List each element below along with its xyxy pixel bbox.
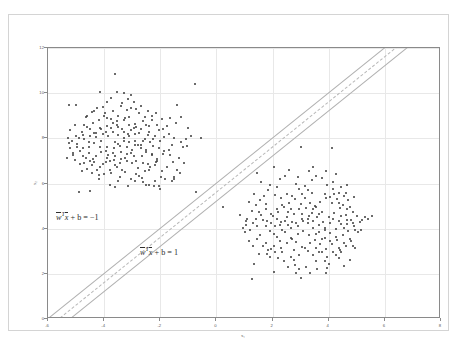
scatter-point [276, 186, 278, 188]
scatter-point [93, 110, 95, 112]
scatter-point [88, 141, 90, 143]
scatter-point [124, 157, 126, 159]
scatter-point [96, 107, 98, 109]
scatter-point [133, 101, 135, 103]
scatter-point [110, 127, 112, 129]
scatter-point [138, 132, 140, 134]
scatter-point [265, 208, 267, 210]
scatter-point [302, 220, 304, 222]
scatter-point [252, 222, 254, 224]
scatter-point [288, 169, 290, 171]
scatter-point [126, 146, 128, 148]
scatter-point [318, 224, 320, 226]
scatter-point [82, 155, 84, 157]
scatter-point [138, 175, 140, 177]
scatter-point [71, 140, 73, 142]
scatter-point [291, 221, 293, 223]
scatter-point [134, 140, 136, 142]
scatter-point [74, 124, 76, 126]
scatter-point [307, 250, 309, 252]
scatter-point [357, 231, 359, 233]
scatter-point [154, 164, 156, 166]
scatter-point [304, 197, 306, 199]
scatter-point [168, 133, 170, 135]
scatter-point [256, 238, 258, 240]
scatter-point [321, 177, 323, 179]
y-tick-mark [44, 318, 47, 319]
scatter-point [85, 157, 87, 159]
scatter-point [277, 211, 279, 213]
scatter-point [117, 126, 119, 128]
scatter-point [109, 169, 111, 171]
scatter-point [126, 153, 128, 155]
scatter-point [301, 193, 303, 195]
scatter-point [69, 147, 71, 149]
scatter-point [123, 119, 125, 121]
scatter-point [95, 132, 97, 134]
scatter-point [248, 240, 250, 242]
scatter-point [338, 257, 340, 259]
scatter-point [312, 227, 314, 229]
scatter-point [135, 108, 137, 110]
x-tick-mark [384, 318, 385, 321]
scatter-point [151, 153, 153, 155]
scatter-point [126, 109, 128, 111]
scatter-point [91, 164, 93, 166]
scatter-point [123, 92, 125, 94]
scatter-point [276, 218, 278, 220]
scatter-point [133, 155, 135, 157]
scatter-point [297, 225, 299, 227]
scatter-point [190, 135, 192, 137]
scatter-point [98, 178, 100, 180]
scatter-point [134, 133, 136, 135]
scatter-point [120, 158, 122, 160]
scatter-point [280, 247, 282, 249]
scatter-point [305, 266, 307, 268]
scatter-point [345, 192, 347, 194]
gridline-vertical [104, 48, 105, 317]
scatter-point [307, 189, 309, 191]
scatter-point [284, 231, 286, 233]
scatter-point [286, 193, 288, 195]
scatter-point [93, 142, 95, 144]
scatter-point [273, 271, 275, 273]
scatter-point [253, 263, 255, 265]
x-tick-label: 6 [383, 323, 385, 328]
scatter-point [300, 277, 302, 279]
scatter-point [329, 196, 331, 198]
scatter-point [137, 167, 139, 169]
scatter-point [185, 138, 187, 140]
scatter-point [244, 231, 246, 233]
gridline-horizontal [48, 138, 439, 139]
scatter-point [89, 160, 91, 162]
scatter-point [144, 138, 146, 140]
scatter-point [325, 197, 327, 199]
scatter-point [315, 260, 317, 262]
annotation-margin-negative: wTx + b = −1 [56, 211, 99, 222]
scatter-point [316, 216, 318, 218]
scatter-point [329, 232, 331, 234]
scatter-point [106, 117, 108, 119]
scatter-point [315, 233, 317, 235]
annot-neg-rest: + b = −1 [68, 213, 98, 222]
scatter-point [130, 129, 132, 131]
scatter-point [134, 180, 136, 182]
scatter-point [343, 265, 345, 267]
scatter-point [314, 205, 316, 207]
scatter-point [336, 239, 338, 241]
scatter-point [117, 115, 119, 117]
scatter-point [352, 211, 354, 213]
scatter-point [116, 91, 118, 93]
scatter-point [137, 144, 139, 146]
scatter-point [176, 104, 178, 106]
scatter-point [273, 245, 275, 247]
scatter-point [294, 198, 296, 200]
scatter-point [333, 193, 335, 195]
scatter-point [267, 189, 269, 191]
scatter-point [324, 193, 326, 195]
scatter-point [128, 141, 130, 143]
scatter-point [340, 186, 342, 188]
scatter-point [106, 157, 108, 159]
scatter-point [279, 224, 281, 226]
scatter-point [135, 173, 137, 175]
